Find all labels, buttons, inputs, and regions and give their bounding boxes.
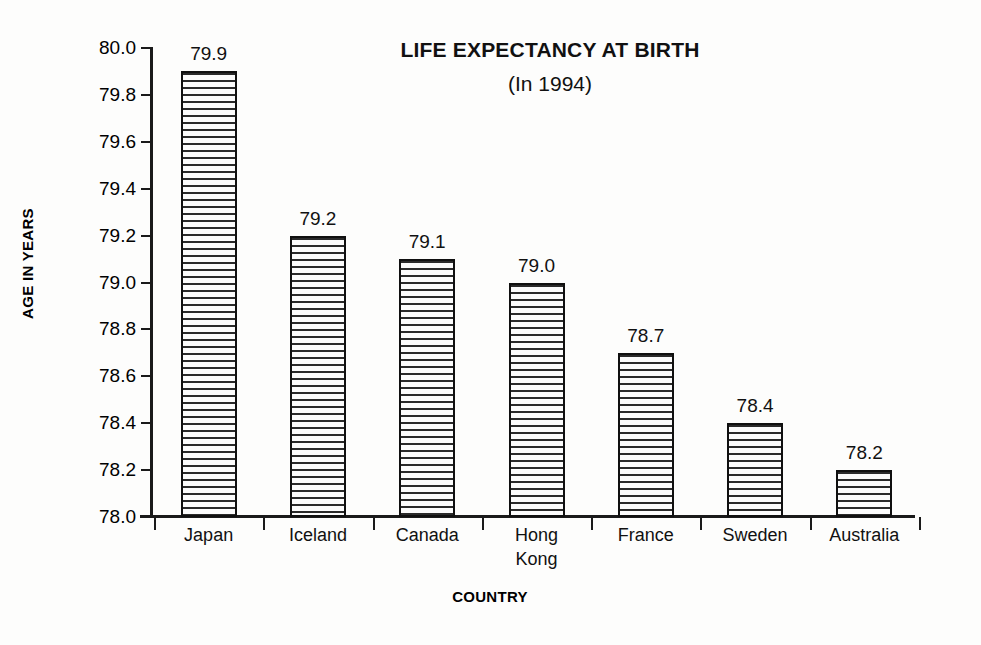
y-tick-mark [141, 469, 153, 471]
bar-value-label: 78.4 [710, 395, 800, 417]
y-tick-label: 78.8 [56, 318, 136, 340]
x-category-label: France [586, 524, 706, 548]
y-tick-label: 79.4 [56, 178, 136, 200]
y-tick-label: 78.6 [56, 365, 136, 387]
y-tick-mark [141, 282, 153, 284]
y-tick-mark [141, 516, 153, 518]
x-category-label: Australia [804, 524, 924, 548]
bar-value-label: 79.9 [164, 43, 254, 65]
y-tick-mark [141, 235, 153, 237]
y-tick-mark [141, 141, 153, 143]
chart-figure: LIFE EXPECTANCY AT BIRTH (In 1994) AGE I… [0, 0, 981, 645]
y-tick-label: 79.2 [56, 225, 136, 247]
y-axis-title: AGE IN YEARS [19, 199, 36, 329]
bar [399, 259, 455, 517]
y-tick-mark [141, 188, 153, 190]
bar-value-label: 79.1 [382, 231, 472, 253]
y-tick-label: 79.8 [56, 84, 136, 106]
x-axis-title: COUNTRY [330, 588, 650, 605]
x-category-label: Iceland [258, 524, 378, 548]
plot-area: 80.079.879.679.479.279.078.878.678.478.2… [150, 48, 915, 517]
y-tick-label: 78.0 [56, 506, 136, 528]
bar-value-label: 78.2 [819, 442, 909, 464]
y-tick-label: 79.0 [56, 272, 136, 294]
bar-value-label: 79.2 [273, 208, 363, 230]
x-category-label: Hong Kong [477, 524, 597, 572]
y-tick-label: 78.2 [56, 459, 136, 481]
bar [836, 470, 892, 517]
x-category-label: Sweden [695, 524, 815, 548]
bar [618, 353, 674, 517]
y-tick-label: 78.4 [56, 412, 136, 434]
bar [290, 236, 346, 517]
x-category-label: Japan [149, 524, 269, 548]
bar [509, 283, 565, 518]
bar-value-label: 78.7 [601, 325, 691, 347]
y-tick-mark [141, 47, 153, 49]
y-tick-mark [141, 94, 153, 96]
y-tick-label: 79.6 [56, 131, 136, 153]
y-tick-mark [141, 422, 153, 424]
y-tick-label: 80.0 [56, 37, 136, 59]
bar [181, 71, 237, 517]
y-tick-mark [141, 375, 153, 377]
bar-value-label: 79.0 [492, 255, 582, 277]
y-tick-mark [141, 328, 153, 330]
bar [727, 423, 783, 517]
x-category-label: Canada [367, 524, 487, 548]
